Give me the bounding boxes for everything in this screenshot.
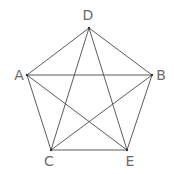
edge-d-c	[51, 28, 89, 150]
vertex-label-b: B	[156, 67, 166, 83]
vertex-label-e: E	[126, 153, 135, 169]
edge-d-a	[27, 28, 89, 75]
edge-d-e	[89, 28, 127, 150]
vertex-a	[26, 74, 28, 76]
edge-b-c	[51, 75, 152, 150]
edges-group	[27, 28, 152, 150]
k5-graph-diagram: D A B C E	[0, 0, 174, 174]
vertex-dots-group	[26, 27, 153, 151]
vertex-c	[50, 149, 52, 151]
edge-a-e	[27, 75, 127, 150]
edge-d-b	[89, 28, 152, 75]
vertex-e	[126, 149, 128, 151]
edge-a-c	[27, 75, 51, 150]
vertex-label-a: A	[14, 67, 24, 83]
vertex-b	[151, 74, 153, 76]
vertex-label-d: D	[83, 7, 94, 23]
edge-b-e	[127, 75, 152, 150]
vertex-d	[88, 27, 90, 29]
vertex-label-c: C	[44, 153, 54, 169]
